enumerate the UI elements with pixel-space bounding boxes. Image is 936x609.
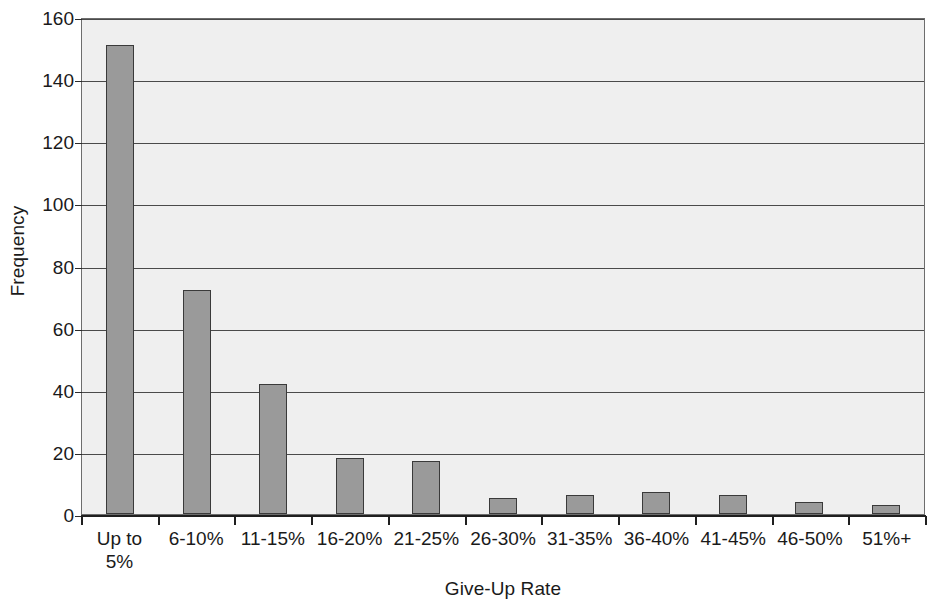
y-axis-tick-mark xyxy=(75,392,82,393)
x-axis-tick-label: 41-45% xyxy=(695,527,772,585)
bar-slot xyxy=(388,19,465,514)
bar-series xyxy=(82,19,924,514)
bar-slot xyxy=(771,19,848,514)
bar[interactable] xyxy=(336,458,364,514)
x-axis-tick-mark xyxy=(695,516,697,525)
y-axis-tick-label: 120 xyxy=(22,133,74,152)
x-axis-tick-label: 6-10% xyxy=(158,527,235,585)
x-axis-tick-mark xyxy=(388,516,390,525)
x-axis-tick-label: 16-20% xyxy=(311,527,388,585)
x-axis-tick-labels: Up to 5%6-10%11-15%16-20%21-25%26-30%31-… xyxy=(81,527,925,585)
y-axis-tick-mark xyxy=(75,268,82,269)
plot-area xyxy=(81,18,925,515)
y-axis-tick-label: 0 xyxy=(22,506,74,525)
bar-slot xyxy=(235,19,312,514)
bar-slot xyxy=(694,19,771,514)
x-axis-tick-label: 21-25% xyxy=(388,527,465,585)
y-axis-tick-mark xyxy=(75,205,82,206)
bar[interactable] xyxy=(642,492,670,514)
x-axis-tick-mark xyxy=(772,516,774,525)
bar-slot xyxy=(312,19,389,514)
bar[interactable] xyxy=(106,45,134,514)
x-axis-tick-mark xyxy=(848,516,850,525)
bar-slot xyxy=(541,19,618,514)
x-axis-tick-label: 26-30% xyxy=(465,527,542,585)
bar-slot xyxy=(618,19,695,514)
y-axis-tick-label: 40 xyxy=(22,381,74,400)
x-axis-tick-marks xyxy=(81,516,925,525)
x-axis-tick-mark xyxy=(465,516,467,525)
y-axis-tick-label: 140 xyxy=(22,71,74,90)
bar[interactable] xyxy=(719,495,747,514)
y-axis-tick-mark xyxy=(75,330,82,331)
bar[interactable] xyxy=(259,384,287,514)
x-axis-tick-mark xyxy=(925,516,927,525)
bar-slot xyxy=(465,19,542,514)
x-axis-title: Give-Up Rate xyxy=(81,578,925,600)
bar[interactable] xyxy=(795,502,823,514)
bar-chart: Frequency 020406080100120140160 Up to 5%… xyxy=(0,0,936,609)
x-axis-tick-mark xyxy=(311,516,313,525)
x-axis-tick-label: Up to 5% xyxy=(81,527,158,585)
y-axis-tick-mark xyxy=(75,81,82,82)
bar[interactable] xyxy=(489,498,517,514)
bar[interactable] xyxy=(412,461,440,514)
bar-slot xyxy=(159,19,236,514)
x-axis-tick-mark xyxy=(541,516,543,525)
y-axis-tick-mark xyxy=(75,19,82,20)
x-axis-tick-label: 46-50% xyxy=(772,527,849,585)
y-axis-tick-mark xyxy=(75,454,82,455)
x-axis-tick-mark xyxy=(234,516,236,525)
y-axis-tick-label: 20 xyxy=(22,443,74,462)
y-axis-tick-label: 80 xyxy=(22,257,74,276)
x-axis-tick-label: 11-15% xyxy=(234,527,311,585)
x-axis-tick-label: 31-35% xyxy=(541,527,618,585)
bar[interactable] xyxy=(872,505,900,514)
x-axis-tick-mark xyxy=(618,516,620,525)
y-axis-tick-mark xyxy=(75,143,82,144)
bar[interactable] xyxy=(183,290,211,514)
x-axis-tick-label: 51%+ xyxy=(848,527,925,585)
y-axis-tick-label: 60 xyxy=(22,319,74,338)
bar-slot xyxy=(82,19,159,514)
bar-slot xyxy=(847,19,924,514)
x-axis-tick-label: 36-40% xyxy=(618,527,695,585)
x-axis-tick-mark xyxy=(158,516,160,525)
y-axis-tick-label: 160 xyxy=(22,9,74,28)
x-axis-tick-mark xyxy=(81,516,83,525)
y-axis-tick-labels: 020406080100120140160 xyxy=(22,0,74,609)
y-axis-tick-label: 100 xyxy=(22,195,74,214)
bar[interactable] xyxy=(566,495,594,514)
